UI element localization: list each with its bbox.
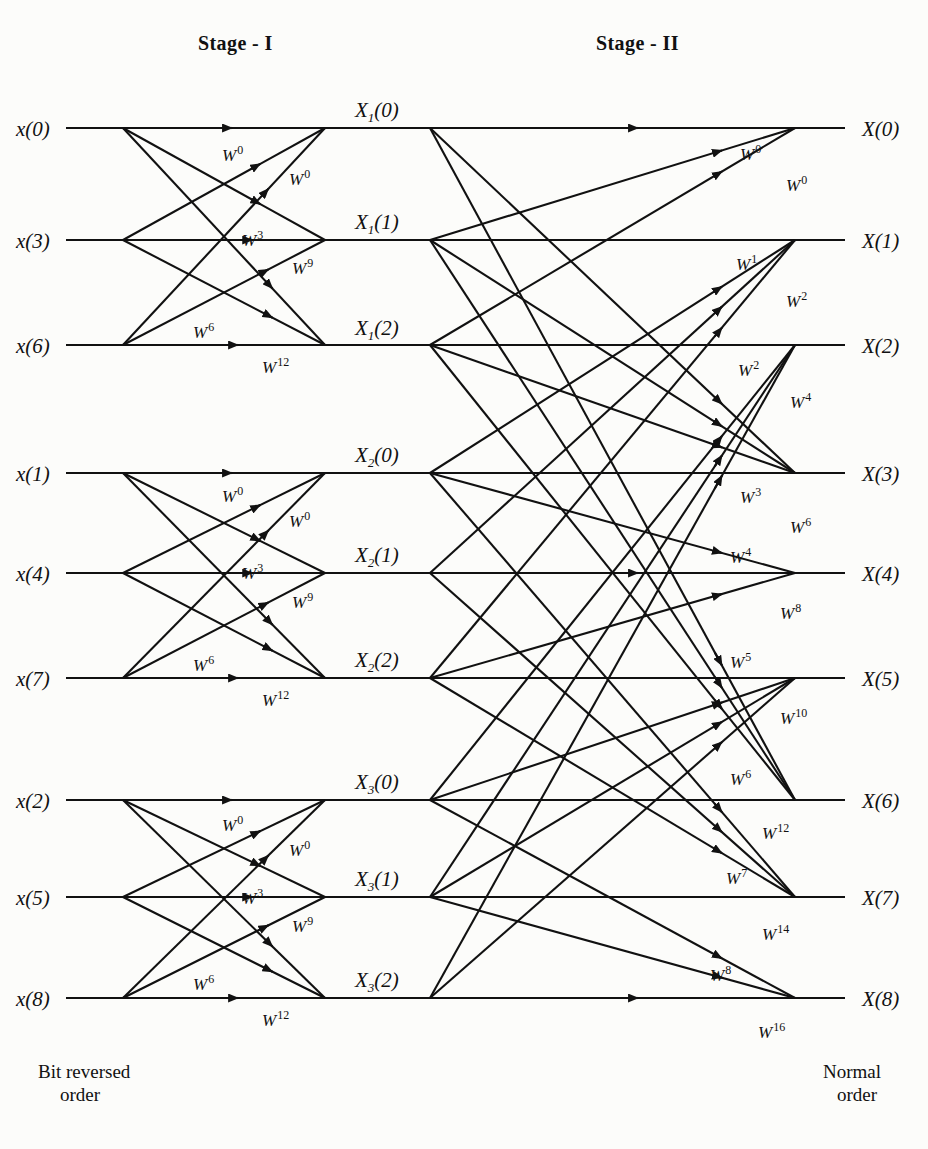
- output-label-X1: X(1): [862, 229, 899, 254]
- flow-arrowhead: [268, 970, 272, 972]
- twiddle-stage1-W6-10: W6: [193, 653, 214, 676]
- flow-arrowhead: [715, 455, 722, 466]
- input-label-x3: x(3): [16, 229, 50, 254]
- flow-arrowhead: [268, 621, 272, 625]
- twiddle-stage1-W3-2: W3: [242, 228, 263, 251]
- twiddle-stage1-W0-12: W0: [222, 813, 243, 836]
- flow-arrowhead: [715, 397, 722, 404]
- twiddle-stage1-W0-6: W0: [222, 484, 243, 507]
- bit-reversed-order-line2: order: [38, 1083, 130, 1106]
- flow-arrowhead: [256, 831, 260, 833]
- twiddle-stage2-W2-4: W2: [738, 358, 759, 381]
- flow-edge: [430, 240, 795, 800]
- bit-reversed-order-line1: Bit reversed: [38, 1060, 130, 1083]
- flow-arrowhead: [268, 316, 272, 318]
- twiddle-stage2-W6-12: W6: [730, 767, 751, 790]
- twiddle-stage1-W12-17: W12: [262, 1008, 289, 1031]
- twiddle-stage1-W12-11: W12: [262, 688, 289, 711]
- twiddle-stage2-W7-14: W7: [726, 866, 747, 889]
- twiddle-stage2-W10-11: W10: [780, 706, 807, 729]
- intermediate-label-X21: X2(1): [355, 543, 399, 571]
- input-label-x0: x(0): [16, 117, 50, 142]
- twiddle-stage2-W16-17: W16: [758, 1020, 785, 1043]
- twiddle-stage2-W12-13: W12: [762, 821, 789, 844]
- twiddle-stage1-W9-3: W9: [292, 256, 313, 279]
- flow-arrowhead: [715, 826, 722, 832]
- flow-arrowhead: [715, 594, 722, 596]
- flow-arrowhead: [715, 171, 722, 175]
- intermediate-label-X20: X2(0): [355, 443, 399, 471]
- twiddle-stage2-W3-6: W3: [740, 485, 761, 508]
- flow-edge: [430, 128, 795, 800]
- flow-arrowhead: [715, 742, 722, 748]
- twiddle-stage1-W3-8: W3: [242, 561, 263, 584]
- flow-arrowhead: [715, 307, 722, 314]
- twiddle-stage2-W0-1: W0: [786, 173, 807, 196]
- flow-arrowhead: [264, 269, 268, 271]
- intermediate-label-X31: X3(1): [355, 867, 399, 895]
- flow-arrowhead: [264, 189, 268, 193]
- intermediate-label-X22: X2(2): [355, 648, 399, 676]
- input-label-x2: x(2): [16, 789, 50, 814]
- twiddle-stage2-W1-2: W1: [736, 252, 757, 275]
- output-label-X5: X(5): [862, 667, 899, 692]
- flow-arrowhead: [715, 436, 722, 445]
- flow-arrowhead: [715, 722, 722, 726]
- input-label-x7: x(7): [16, 667, 50, 692]
- intermediate-label-X32: X3(2): [355, 968, 399, 996]
- flow-arrowhead: [268, 284, 272, 288]
- flow-edge: [430, 897, 795, 998]
- flow-edge: [430, 473, 795, 897]
- output-label-X6: X(6): [862, 789, 899, 814]
- flow-arrowhead: [256, 505, 260, 507]
- flow-arrowhead: [715, 652, 722, 665]
- twiddle-stage2-W14-15: W14: [762, 922, 789, 945]
- normal-order-line1: Normal: [823, 1060, 881, 1083]
- twiddle-stage2-W4-5: W4: [790, 390, 811, 413]
- flow-arrowhead: [715, 804, 722, 812]
- bit-reversed-order-label: Bit reversed order: [38, 1060, 130, 1106]
- fft-butterfly-figure: Stage - I Stage - II x(0) x(3) x(6) x(1)…: [0, 0, 928, 1149]
- output-label-X7: X(7): [862, 886, 899, 911]
- output-label-X0: X(0): [862, 117, 899, 142]
- twiddle-stage1-W0-1: W0: [289, 167, 310, 190]
- twiddle-stage2-W8-16: W8: [710, 963, 731, 986]
- flow-arrowhead: [268, 943, 272, 947]
- twiddle-stage2-W5-10: W5: [730, 650, 751, 673]
- intermediate-label-X12: X1(2): [355, 316, 399, 344]
- output-label-X3: X(3): [862, 462, 899, 487]
- twiddle-stage2-W2-3: W2: [786, 289, 807, 312]
- intermediate-label-X10: X1(0): [355, 98, 399, 126]
- twiddle-stage1-W12-5: W12: [262, 355, 289, 378]
- input-label-x4: x(4): [16, 562, 50, 587]
- input-label-x8: x(8): [16, 987, 50, 1012]
- output-label-X4: X(4): [862, 562, 899, 587]
- flow-arrowhead: [715, 551, 722, 553]
- input-label-x5: x(5): [16, 886, 50, 911]
- flow-arrowhead: [715, 150, 722, 152]
- twiddle-stage1-W6-4: W6: [193, 320, 214, 343]
- twiddle-stage2-W8-9: W8: [780, 601, 801, 624]
- flow-edge: [430, 240, 795, 678]
- flow-arrowhead: [256, 164, 260, 166]
- input-label-x6: x(6): [16, 334, 50, 359]
- twiddle-stage1-W0-13: W0: [289, 838, 310, 861]
- twiddle-stage2-W0-0: W0: [740, 142, 761, 165]
- normal-order-line2: order: [823, 1083, 881, 1106]
- flow-arrowhead: [715, 328, 722, 337]
- flow-arrowhead: [264, 530, 268, 534]
- twiddle-stage1-W9-9: W9: [292, 590, 313, 613]
- flow-arrowhead: [715, 422, 722, 427]
- flow-arrowhead: [715, 849, 722, 853]
- output-label-X8: X(8): [862, 987, 899, 1012]
- flow-arrowhead: [715, 476, 722, 489]
- twiddle-stage1-W0-7: W0: [289, 509, 310, 532]
- twiddle-stage1-W3-14: W3: [242, 886, 263, 909]
- flow-arrowhead: [715, 954, 722, 958]
- output-label-X2: X(2): [862, 334, 899, 359]
- intermediate-label-X30: X3(0): [355, 770, 399, 798]
- intermediate-label-X11: X1(1): [355, 210, 399, 238]
- twiddle-stage1-W0-0: W0: [222, 143, 243, 166]
- flow-edge: [430, 678, 795, 998]
- twiddle-stage1-W6-16: W6: [193, 972, 214, 995]
